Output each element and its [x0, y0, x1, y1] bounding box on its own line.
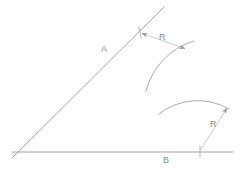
- geometry-canvas: [0, 0, 243, 177]
- technical-drawing-figure: A B R R: [0, 0, 243, 177]
- arc-bottom: [159, 100, 229, 114]
- line-a: [12, 7, 164, 158]
- tick-mark-on-line-a: [135, 27, 145, 38]
- label-radius-top: R: [159, 33, 166, 42]
- center-mark-top: [144, 88, 152, 96]
- label-line-b: B: [163, 156, 169, 165]
- radius-dimension-line-bottom: [201, 108, 228, 150]
- label-radius-bottom: R: [210, 120, 217, 129]
- label-line-a: A: [101, 45, 107, 54]
- center-mark-bottom: [157, 110, 165, 118]
- arc-top: [146, 41, 194, 91]
